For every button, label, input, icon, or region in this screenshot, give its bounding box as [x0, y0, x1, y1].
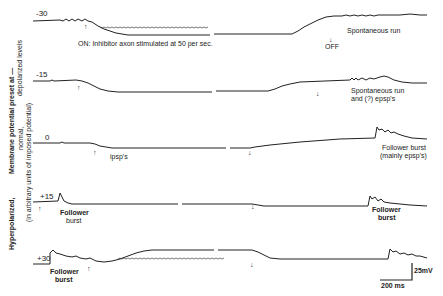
y-axis-label-line4: depolarized levels	[16, 40, 24, 96]
on-arrow-icon: ↑	[87, 265, 91, 272]
on-arrow-icon: ↑	[93, 149, 97, 156]
scale-time-label: 200 ms	[381, 282, 405, 290]
on-arrow-icon: ↑	[38, 205, 42, 212]
epsp-label: and (?) epsp's	[351, 95, 395, 103]
spontaneous-run-label: Spontaneous run	[347, 27, 400, 35]
trace-plus-30-ripple	[118, 258, 224, 259]
electrophysiology-figure: Hyperpolarized, Membrane potential prese…	[0, 0, 443, 296]
off-arrow-icon: ↓	[316, 90, 320, 97]
burst-label: burst	[378, 214, 396, 222]
follower-burst-label: Follower	[60, 209, 89, 217]
scale-bar	[380, 263, 412, 280]
stimulus-annotation: ON: Inhibitor axon stimulated at 50 per …	[78, 40, 213, 48]
off-arrow-icon: ↓	[329, 36, 333, 43]
trace-zero	[33, 127, 427, 148]
off-arrow-icon: ↓	[251, 203, 255, 210]
trace-plus-15	[33, 193, 427, 206]
off-arrow-icon: ↓	[248, 149, 252, 156]
burst-label: burst	[55, 276, 73, 284]
on-arrow-icon: ↑	[84, 23, 88, 30]
burst-label: burst	[66, 217, 82, 225]
follower-burst-label: Follower burst	[382, 144, 426, 152]
y-axis-label-line3: (in arbitrary units of imposed potential…	[25, 103, 33, 222]
ipsp-label: ipsp's	[110, 153, 128, 161]
spontaneous-run-label: Spontaneous run	[351, 87, 404, 95]
level-label-plus-15: +15	[40, 192, 54, 201]
membrane-potential-traces	[0, 0, 443, 296]
trace-plus-30	[33, 249, 427, 264]
off-arrow-icon: ↓	[250, 261, 254, 268]
trace-minus-30-ripple	[100, 27, 208, 28]
y-axis-label-line1b: Membrane potential preset at —	[8, 68, 16, 174]
level-label-minus-15: -15	[36, 70, 48, 79]
follower-burst-label: Follower	[50, 268, 79, 276]
on-arrow-icon: ↑	[77, 84, 81, 91]
level-label-minus-30: -30	[36, 9, 48, 18]
y-axis-label-line1: Hyperpolarized,	[8, 197, 16, 250]
follower-burst-label: Follower	[372, 206, 401, 214]
scale-voltage-label: 25mV	[414, 267, 433, 275]
off-label: OFF	[325, 43, 339, 51]
y-axis-label-line2: normal,	[17, 127, 25, 150]
mainly-epsps-label: (mainly epsp's)	[380, 152, 427, 160]
level-label-plus-30: +30	[37, 254, 51, 263]
level-label-zero: 0	[45, 133, 49, 142]
